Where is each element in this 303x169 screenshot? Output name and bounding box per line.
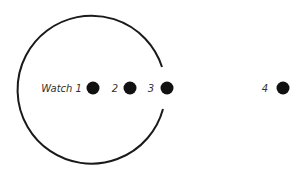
point-dot-3 xyxy=(161,82,174,95)
point-label-4: 4 xyxy=(262,83,268,94)
point-dot-1 xyxy=(87,82,100,95)
point-label-3: 3 xyxy=(148,83,154,94)
point-dot-4 xyxy=(277,82,290,95)
point-label-1: Watch 1 xyxy=(41,83,82,94)
diagram-canvas: Watch 1 2 3 4 xyxy=(0,0,303,169)
point-label-2: 2 xyxy=(112,83,118,94)
point-dot-2 xyxy=(124,82,137,95)
